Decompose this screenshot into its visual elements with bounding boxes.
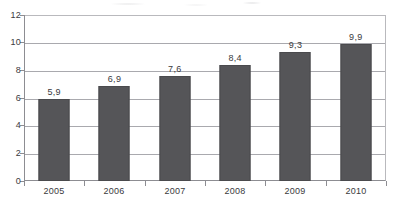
x-tickmark-6 [386,181,387,186]
x-ticklabel-2007: 2007 [165,186,186,196]
y-axis-tick-labels: 12 10 8 6 4 2 0 [0,0,21,206]
x-ticklabel-2009: 2009 [285,186,306,196]
bar-2010[interactable] [340,44,371,181]
bar-2005[interactable] [39,99,70,181]
y-ticklabel-0: 0 [3,176,21,186]
bars-layer: 5,9 6,9 7,6 8,4 9,3 9,9 [24,15,386,181]
x-tickmark-5 [326,181,327,186]
bar-value-2008: 8,4 [228,53,241,63]
bar-chart-figure: 12 10 8 6 4 2 0 5,9 6,9 7,6 8,4 9,3 [0,0,398,206]
bar-value-2010: 9,9 [349,32,362,42]
bar-value-2007: 7,6 [168,64,181,74]
bar-2009[interactable] [280,52,311,181]
bar-2006[interactable] [99,86,130,181]
bar-value-2005: 5,9 [47,87,60,97]
y-ticklabel-6: 6 [3,93,21,103]
bar-2008[interactable] [220,65,251,181]
x-tickmark-3 [205,181,206,186]
x-ticklabel-2005: 2005 [44,186,65,196]
x-tickmark-1 [84,181,85,186]
x-ticklabel-2010: 2010 [346,186,367,196]
bar-2007[interactable] [159,76,190,181]
y-ticklabel-12: 12 [3,10,21,20]
y-ticklabel-8: 8 [3,65,21,75]
bar-slot-2006: 6,9 [84,15,144,181]
bar-value-2009: 9,3 [289,40,302,50]
bar-slot-2007: 7,6 [145,15,205,181]
y-ticklabel-2: 2 [3,148,21,158]
scan-artifact [0,0,398,9]
y-ticklabel-10: 10 [3,37,21,47]
y-ticklabel-4: 4 [3,120,21,130]
bar-slot-2010: 9,9 [326,15,386,181]
bar-value-2006: 6,9 [108,74,121,84]
x-tickmark-4 [265,181,266,186]
x-ticklabel-2008: 2008 [225,186,246,196]
x-ticklabel-2006: 2006 [104,186,125,196]
bar-slot-2008: 8,4 [205,15,265,181]
bar-slot-2005: 5,9 [24,15,84,181]
x-tickmark-0 [24,181,25,186]
x-tickmark-2 [145,181,146,186]
bar-slot-2009: 9,3 [265,15,325,181]
